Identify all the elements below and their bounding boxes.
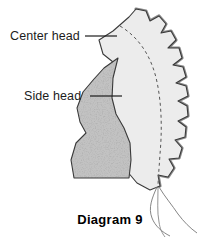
thread-group — [150, 187, 197, 237]
label-center-head: Center head — [10, 29, 80, 43]
diagram-figure: Center head Side head Diagram 9 — [0, 0, 221, 238]
label-side-head: Side head — [24, 89, 81, 103]
thread-2 — [159, 187, 197, 233]
diagram-caption: Diagram 9 — [77, 212, 143, 227]
diagram-canvas: Center head Side head Diagram 9 — [0, 0, 221, 238]
thread-3 — [158, 188, 165, 237]
